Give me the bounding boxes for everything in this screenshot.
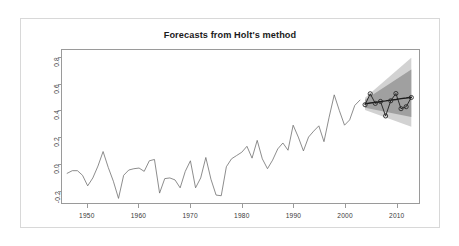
y-tick-label: 0.0 — [54, 164, 61, 174]
x-tick-label: 1990 — [286, 212, 301, 219]
x-tick-label: 1950 — [79, 212, 94, 219]
x-tick-mark — [138, 204, 139, 208]
y-tick-label: 0.2 — [54, 137, 61, 147]
x-tick-mark — [293, 204, 294, 208]
x-tick-mark — [397, 204, 398, 208]
x-tick-mark — [242, 204, 243, 208]
y-axis: -0.20.00.20.40.60.8 — [49, 49, 61, 204]
x-tick-mark — [190, 204, 191, 208]
x-tick-label: 2010 — [389, 212, 404, 219]
page-title: Forecasts from Holt's method — [21, 30, 439, 40]
plot-svg — [62, 50, 419, 203]
x-tick-label: 1970 — [182, 212, 197, 219]
y-tick-label: 0.4 — [54, 110, 61, 120]
x-tick-label: 1980 — [234, 212, 249, 219]
y-tick-label: 0.6 — [54, 84, 61, 94]
x-tick-label: 1960 — [131, 212, 146, 219]
history-line — [67, 95, 360, 199]
x-tick-mark — [87, 204, 88, 208]
plot-panel — [61, 49, 420, 204]
y-tick-label: 0.8 — [54, 57, 61, 67]
x-axis: 1950196019701980199020002010 — [61, 204, 420, 226]
x-tick-mark — [345, 204, 346, 208]
y-tick-label: -0.2 — [54, 191, 61, 203]
x-tick-label: 2000 — [337, 212, 352, 219]
figure-frame: Forecasts from Holt's method -0.20.00.20… — [20, 18, 440, 228]
